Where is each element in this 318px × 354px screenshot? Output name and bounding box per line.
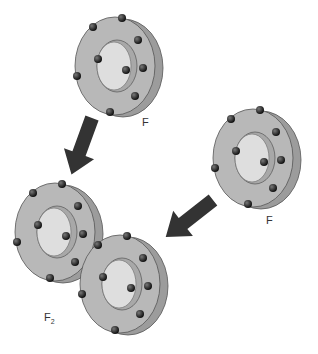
arrow-down-icon [56, 113, 107, 180]
atom-top [73, 14, 163, 117]
label-atom-top: F [142, 116, 149, 128]
label-atom-right: F [266, 214, 273, 226]
label-molecule-subscript: 2 [51, 318, 55, 325]
diagram-canvas [0, 0, 318, 354]
atom-right [211, 106, 301, 209]
label-molecule-main: F [44, 311, 51, 323]
arrow-down-left-icon [156, 187, 223, 249]
label-molecule: F2 [44, 311, 55, 325]
